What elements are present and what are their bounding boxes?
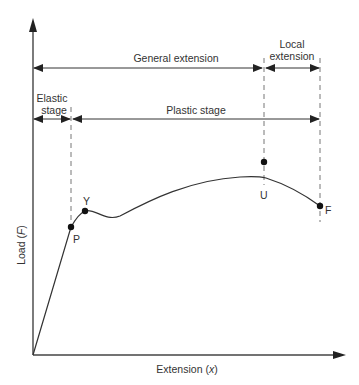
point-u-label: U: [260, 189, 268, 201]
y-axis: [29, 18, 37, 355]
elastic-stage-label-line1: Elastic: [37, 92, 68, 104]
elastic-stage-label-line2: stage: [41, 104, 67, 116]
point-f-marker: [317, 203, 323, 209]
plastic-stage-label: Plastic stage: [166, 104, 226, 116]
x-axis-arrow-icon: [333, 351, 346, 359]
general-extension-label: General extension: [133, 52, 218, 64]
load-extension-curve: [33, 177, 320, 355]
point-y-marker: [82, 208, 88, 214]
point-y-label: Y: [83, 195, 90, 207]
dashed-guides: [71, 58, 320, 227]
point-u-marker: [261, 159, 267, 165]
local-extension-label-line2: extension: [270, 50, 315, 62]
load-extension-diagram: General extension Local extension Elasti…: [0, 0, 359, 385]
local-extension-label-line1: Local: [279, 38, 304, 50]
x-axis-label: Extension (x): [156, 363, 217, 375]
point-p-label: P: [73, 233, 80, 245]
point-f-label: F: [325, 204, 331, 216]
y-axis-label: Load (F): [15, 225, 27, 265]
y-axis-arrow-icon: [29, 18, 37, 32]
point-p-marker: [68, 224, 74, 230]
x-axis: [33, 351, 346, 359]
